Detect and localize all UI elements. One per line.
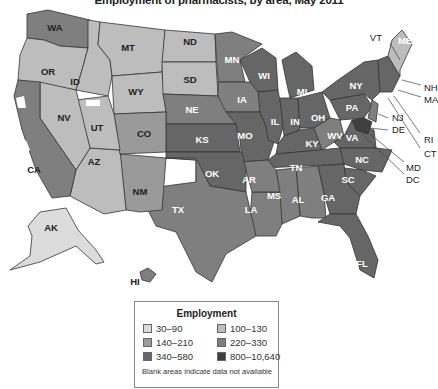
legend-item: 100–130	[217, 323, 283, 334]
state-label-ak: AK	[44, 222, 58, 233]
legend-title: Employment	[135, 308, 278, 319]
state-nm	[120, 154, 166, 212]
state-label-la: LA	[245, 204, 258, 215]
callout-label-nh: NH	[424, 82, 438, 93]
state-label-wv: WV	[327, 130, 343, 141]
state-label-co: CO	[137, 128, 151, 139]
legend-item: 30–90	[143, 323, 217, 334]
state-label-ks: KS	[195, 134, 208, 145]
leader-line-ma	[398, 90, 421, 97]
legend-item: 220–330	[217, 337, 283, 348]
state-label-hi: HI	[130, 276, 140, 287]
legend-label: 220–330	[230, 337, 267, 348]
state-label-mn: MN	[225, 54, 240, 65]
legend-label: 800–10,640	[230, 351, 280, 362]
state-label-me: ME	[398, 35, 412, 46]
state-label-il: IL	[271, 116, 280, 127]
state-label-al: AL	[292, 194, 305, 205]
legend-swatch	[143, 352, 152, 361]
legend-label: 100–130	[230, 323, 267, 334]
state-label-ny: NY	[349, 80, 363, 91]
legend-label: 30–90	[156, 323, 182, 334]
us-choropleth-map: WAORIDMTWYNDSDNEKSMNIAMOWIILMIINOHKYTNWV…	[0, 0, 438, 300]
state-label-az: AZ	[88, 156, 101, 167]
legend-label: 340–580	[156, 351, 193, 362]
callout-label-ri: RI	[424, 134, 434, 145]
state-label-mo: MO	[237, 130, 252, 141]
state-label-wy: WY	[128, 86, 144, 97]
state-label-nc: NC	[355, 154, 369, 165]
callout-label-md: MD	[406, 162, 421, 173]
leader-line-nh	[402, 80, 421, 85]
state-label-pa: PA	[346, 102, 359, 113]
legend-swatch	[217, 324, 226, 333]
state-label-oh: OH	[311, 112, 325, 123]
legend-swatch	[143, 338, 152, 347]
legend-note: Blank areas indicate data not available	[142, 367, 278, 376]
callout-label-ct: CT	[424, 148, 437, 159]
state-label-nv: NV	[57, 112, 71, 123]
state-label-ca: CA	[27, 164, 41, 175]
legend-grid: 30–90100–130140–210220–330340–580800–10,…	[143, 323, 278, 362]
legend-swatch	[217, 338, 226, 347]
state-label-ne: NE	[185, 104, 198, 115]
state-label-ar: AR	[242, 174, 256, 185]
legend-item: 800–10,640	[217, 351, 283, 362]
legend-swatch	[143, 324, 152, 333]
callout-label-de: DE	[392, 124, 405, 135]
legend-item: 140–210	[143, 337, 217, 348]
state-label-sd: SD	[183, 74, 196, 85]
callout-label-dc: DC	[406, 174, 420, 185]
legend-item: 340–580	[143, 351, 217, 362]
state-label-sc: SC	[341, 174, 354, 185]
callout-label-nj: NJ	[392, 112, 404, 123]
state-label-nd: ND	[183, 36, 197, 47]
state-label-fl: FL	[356, 258, 368, 269]
state-label-va: VA	[346, 132, 359, 143]
state-label-ky: KY	[305, 138, 319, 149]
state-label-tn: TN	[290, 162, 303, 173]
state-label-ia: IA	[237, 94, 247, 105]
state-label-ms: MS	[267, 190, 281, 201]
state-fl	[318, 214, 378, 278]
leader-line-nj	[378, 114, 388, 118]
state-label-in: IN	[290, 116, 300, 127]
state-label-wi: WI	[258, 70, 270, 81]
state-label-mi: MI	[297, 86, 308, 97]
state-label-id: ID	[70, 76, 80, 87]
state-label-mt: MT	[121, 42, 135, 53]
state-label-ga: GA	[321, 192, 335, 203]
state-ak	[10, 208, 104, 270]
state-label-tx: TX	[172, 204, 185, 215]
state-label-ut: UT	[91, 122, 104, 133]
state-hi	[140, 268, 156, 282]
state-label-ok: OK	[205, 168, 219, 179]
legend: Employment 30–90100–130140–210220–330340…	[134, 301, 279, 388]
callout-label-vt: VT	[370, 32, 382, 43]
legend-label: 140–210	[156, 337, 193, 348]
legend-swatch	[217, 352, 226, 361]
state-label-or: OR	[41, 66, 55, 77]
callout-label-ma: MA	[424, 94, 438, 105]
state-label-nm: NM	[133, 186, 148, 197]
state-label-wa: WA	[47, 22, 62, 33]
no-data-area	[86, 100, 100, 106]
